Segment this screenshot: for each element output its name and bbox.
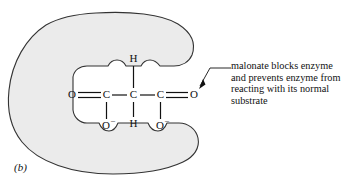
annotation-line-4: substrate <box>231 95 348 107</box>
atom-right-oxide: O <box>156 119 164 131</box>
panel-label: (b) <box>14 161 27 174</box>
annotation-line-3: reacting with its normal <box>231 83 348 95</box>
annotation-caption: malonate blocks enzyme and prevents enzy… <box>231 60 348 106</box>
annotation-line-2: and prevents enzyme from <box>231 72 348 84</box>
annotation-line-1: malonate blocks enzyme <box>231 60 348 72</box>
left-oxide-charge: – <box>110 116 116 125</box>
atom-top-hydrogen: H <box>130 52 138 64</box>
atom-left-carbon: C <box>103 88 110 100</box>
atom-right-carbon: C <box>157 88 164 100</box>
atom-left-oxide: O <box>102 119 110 131</box>
atom-left-oxygen: O <box>68 88 76 100</box>
arrow-icon <box>199 79 206 89</box>
atom-center-carbon: C <box>130 88 137 100</box>
atom-right-oxygen: O <box>190 88 198 100</box>
enzyme-inhibition-figure: O C C C O H H O – O – (b) malonate block… <box>0 0 348 186</box>
atom-bottom-hydrogen: H <box>130 117 138 129</box>
